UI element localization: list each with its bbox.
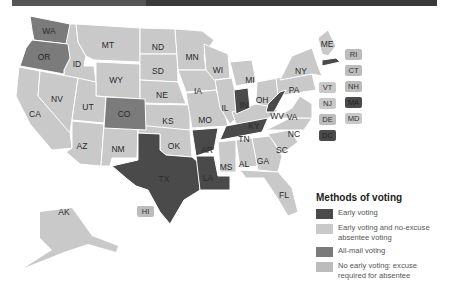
state-box-de: DE [319, 114, 336, 125]
state-box-vt: VT [319, 82, 336, 93]
svg-text:TX: TX [159, 174, 170, 184]
svg-text:WY: WY [109, 75, 123, 85]
svg-text:KS: KS [162, 116, 174, 126]
legend: Methods of voting Early voting Early vot… [316, 192, 446, 284]
legend-item-early-no-excuse: Early voting and no-excuse absentee voti… [316, 223, 446, 242]
svg-text:NE: NE [156, 90, 168, 100]
state-box-dc: DC [319, 130, 336, 141]
svg-text:MI: MI [245, 75, 254, 85]
svg-text:SC: SC [276, 145, 288, 155]
svg-text:GA: GA [257, 156, 270, 166]
svg-text:OK: OK [168, 141, 181, 151]
svg-text:ND: ND [152, 42, 164, 52]
svg-text:CO: CO [118, 109, 131, 119]
svg-text:AZ: AZ [77, 141, 88, 151]
svg-text:MT: MT [102, 40, 114, 50]
svg-text:NC: NC [288, 129, 300, 139]
svg-text:AR: AR [201, 145, 213, 155]
svg-text:OH: OH [256, 95, 269, 105]
state-box-md: MD [345, 113, 362, 124]
svg-text:MO: MO [198, 115, 212, 125]
svg-text:WI: WI [213, 65, 223, 75]
svg-text:VA: VA [287, 112, 298, 122]
svg-text:MN: MN [185, 52, 198, 62]
svg-text:MS: MS [220, 162, 233, 172]
state-ma [322, 58, 340, 66]
state-box-nh: NH [345, 81, 362, 92]
svg-text:IN: IN [240, 100, 249, 110]
legend-item-no-early-excuse: No early voting: excuse required for abs… [316, 261, 446, 280]
svg-text:NM: NM [111, 144, 124, 154]
legend-item-early-voting: Early voting [316, 208, 446, 219]
svg-text:LA: LA [203, 173, 214, 183]
swatch-all-mail [316, 247, 333, 257]
swatch-early-no-excuse [316, 224, 333, 234]
swatch-no-early-excuse [316, 262, 333, 272]
svg-text:OR: OR [38, 52, 51, 62]
svg-text:IL: IL [221, 103, 228, 113]
svg-text:SD: SD [152, 66, 164, 76]
svg-text:CA: CA [29, 109, 41, 119]
state-box-nj: NJ [319, 98, 336, 109]
svg-text:TN: TN [238, 134, 249, 144]
state-box-hi: HI [137, 206, 154, 217]
svg-text:WV: WV [270, 111, 284, 121]
svg-text:AK: AK [58, 207, 70, 217]
svg-text:NY: NY [295, 66, 307, 76]
swatch-early-voting [316, 209, 333, 219]
svg-text:KY: KY [248, 121, 260, 131]
svg-text:IA: IA [194, 86, 202, 96]
svg-text:PA: PA [289, 85, 300, 95]
state-box-ct: CT [345, 65, 362, 76]
svg-text:ME: ME [321, 39, 334, 49]
state-fl [240, 170, 298, 216]
svg-text:UT: UT [82, 102, 93, 112]
svg-text:AL: AL [239, 159, 250, 169]
legend-item-all-mail: All-mail voting [316, 246, 446, 257]
svg-text:WA: WA [42, 26, 56, 36]
state-ak [24, 208, 118, 268]
svg-text:ID: ID [73, 59, 82, 69]
svg-text:NV: NV [51, 94, 63, 104]
state-box-ma: MA [345, 97, 362, 108]
legend-title: Methods of voting [316, 192, 446, 203]
svg-text:FL: FL [279, 190, 289, 200]
state-box-ri: RI [345, 49, 362, 60]
